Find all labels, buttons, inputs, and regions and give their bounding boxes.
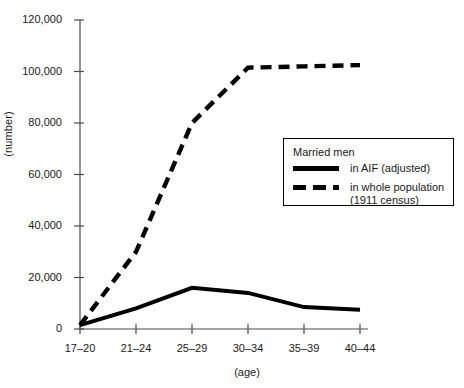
x-axis-tick-label: 25–29: [162, 343, 222, 354]
dashed-line-swatch: [293, 185, 339, 190]
chart-container: (number) 020,00040,00060,00080,000100,00…: [0, 0, 464, 388]
series-line-aif-adjusted: [80, 288, 360, 325]
legend-label-whole-population: in whole population (1911 census): [350, 181, 444, 207]
y-axis-ticks: [74, 20, 84, 329]
x-axis-tick-label: 30–34: [218, 343, 278, 354]
x-axis-tick-label: 17–20: [50, 343, 110, 354]
x-axis-title: (age): [0, 366, 464, 378]
x-axis-tick-label: 21–24: [106, 343, 166, 354]
solid-line-swatch: [293, 166, 339, 171]
legend-label-line1: in whole population: [350, 181, 444, 193]
legend-title: Married men: [293, 146, 355, 158]
chart-legend: Married men in AIF (adjusted) in whole p…: [283, 138, 454, 206]
x-axis-tick-label: 35–39: [274, 343, 334, 354]
legend-label-aif: in AIF (adjusted): [350, 162, 430, 175]
x-axis-title-text: (age): [234, 366, 260, 378]
legend-label-line2: (1911 census): [350, 194, 419, 206]
x-axis-tick-label: 40–44: [330, 343, 390, 354]
